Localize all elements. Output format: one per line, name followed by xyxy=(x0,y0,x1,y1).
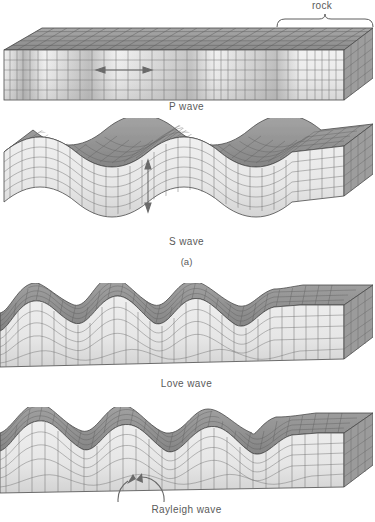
panel-s-wave xyxy=(0,118,373,230)
panel-p-wave xyxy=(0,22,373,106)
group-label-a: (a) xyxy=(0,256,373,267)
s-wave-block-diagram xyxy=(0,118,373,230)
caption-p-wave: P wave xyxy=(0,101,373,112)
rayleigh-wave-block-diagram xyxy=(0,407,373,502)
caption-s-wave: S wave xyxy=(0,236,373,247)
caption-rayleigh-wave: Rayleigh wave xyxy=(0,504,373,515)
panel-love-wave xyxy=(0,283,373,375)
rock-label: rock xyxy=(292,0,352,11)
panel-rayleigh-wave xyxy=(0,407,373,502)
p-wave-block-diagram xyxy=(0,22,373,106)
love-wave-block-diagram xyxy=(0,283,373,375)
caption-love-wave: Love wave xyxy=(0,378,373,389)
